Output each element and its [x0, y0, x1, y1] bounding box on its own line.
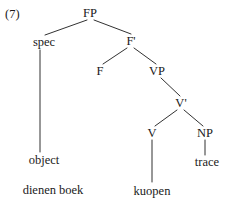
- node-spec: spec: [33, 36, 55, 49]
- edge-vbar-v: [155, 110, 177, 126]
- edge-fp-spec: [45, 20, 87, 35]
- edge-fp-fbar: [94, 20, 131, 34]
- edge-vp-vbar: [161, 78, 180, 96]
- node-vp: VP: [149, 65, 165, 78]
- edge-fbar-vp: [134, 48, 156, 64]
- edge-fbar-f: [103, 48, 127, 64]
- tree-edges: [0, 0, 237, 207]
- node-np: NP: [197, 127, 213, 140]
- leaf-trace: trace: [195, 156, 219, 169]
- node-f: F: [97, 65, 104, 78]
- leaf-object: object: [29, 154, 60, 167]
- edge-vbar-np: [184, 110, 203, 126]
- leaf-kuopen: kuopen: [134, 185, 171, 198]
- node-f-bar: F': [126, 35, 135, 48]
- leaf-dienen-boek: dienen boek: [23, 184, 84, 197]
- node-v-bar: V': [175, 97, 186, 110]
- node-v: V: [147, 127, 156, 140]
- node-fp: FP: [83, 7, 97, 20]
- example-number: (7): [5, 8, 20, 21]
